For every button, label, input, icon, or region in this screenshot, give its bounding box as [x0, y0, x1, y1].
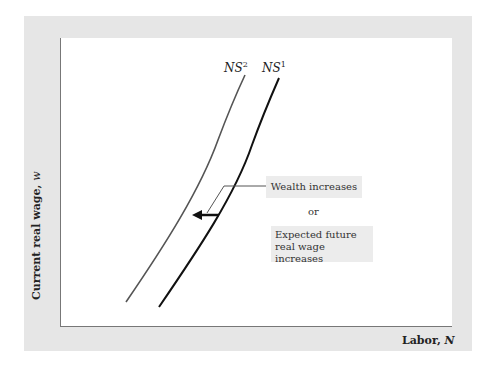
cause-2-line-1: Expected future: [275, 229, 369, 241]
cause-box-expected-wage: Expected future real wage increases: [271, 226, 373, 262]
cause-box-wealth: Wealth increases: [266, 176, 362, 198]
ns1-curve: [159, 78, 279, 307]
or-connector: or: [308, 206, 319, 217]
leader-line: [207, 186, 266, 213]
left-arrow-icon: [192, 210, 202, 220]
cause-2-line-2: real wage increases: [275, 241, 369, 265]
curves-svg: [0, 0, 496, 367]
ns1-label: NS1: [262, 60, 286, 75]
ns2-label: NS2: [224, 60, 248, 75]
